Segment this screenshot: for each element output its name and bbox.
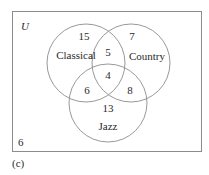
figure-caption: (c) <box>12 157 25 170</box>
classical-only-count: 15 <box>79 30 91 42</box>
country-set-label: Country <box>129 50 166 62</box>
classical-country-count: 5 <box>105 46 111 58</box>
venn-diagram: U 15 7 Classical 5 Country 4 6 8 13 Jazz… <box>0 0 209 175</box>
classical-set-label: Classical <box>56 49 96 61</box>
country-only-count: 7 <box>129 30 135 42</box>
jazz-set-label: Jazz <box>99 120 118 132</box>
classical-jazz-count: 6 <box>84 84 90 96</box>
outside-count: 6 <box>18 136 24 148</box>
jazz-only-count: 13 <box>103 102 115 114</box>
country-jazz-count: 8 <box>127 84 133 96</box>
universe-label: U <box>21 20 30 32</box>
all-three-count: 4 <box>105 69 111 81</box>
